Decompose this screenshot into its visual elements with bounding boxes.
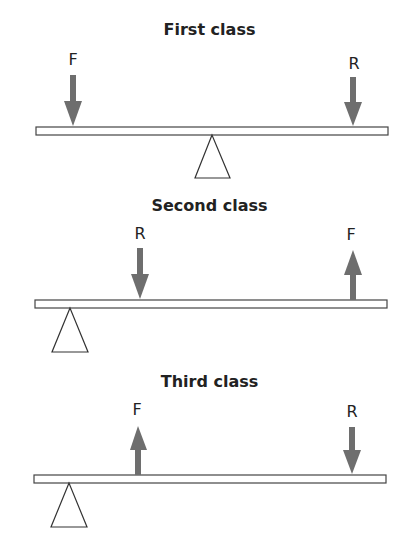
arrow-up-icon: [344, 250, 362, 300]
beam: [34, 475, 386, 483]
beam: [35, 300, 387, 308]
arrow-up-icon: [130, 426, 147, 475]
third-class-lever: [34, 426, 386, 527]
second-class-lever: [35, 248, 387, 352]
arrow-down-icon: [64, 75, 82, 126]
fulcrum-icon: [52, 308, 88, 352]
arrow-down-icon: [343, 427, 361, 474]
first-class-lever: [36, 75, 388, 178]
fulcrum-icon: [51, 483, 87, 527]
fulcrum-icon: [195, 135, 230, 178]
arrow-down-icon: [131, 248, 149, 299]
lever-diagram: [0, 0, 419, 542]
arrow-down-icon: [344, 77, 362, 126]
